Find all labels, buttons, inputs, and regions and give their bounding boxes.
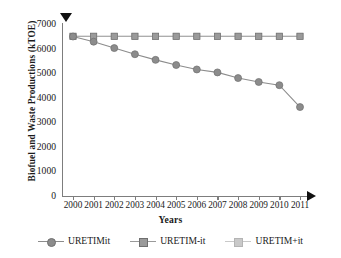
- x-axis-title: Years: [0, 214, 341, 225]
- data-point-square: [276, 33, 282, 39]
- data-point-circle: [214, 69, 221, 76]
- legend-marker-square-icon: [234, 238, 243, 247]
- series-uretim-it: [70, 33, 303, 39]
- data-point-square: [256, 33, 262, 39]
- legend-item-uretim-it[interactable]: URETIM-it: [130, 235, 205, 247]
- legend-swatch: [38, 236, 64, 247]
- data-point-circle: [111, 45, 118, 52]
- legend-swatch: [130, 236, 156, 247]
- legend-item-uretimit[interactable]: URETIMit: [38, 235, 110, 247]
- data-point-square: [235, 33, 241, 39]
- legend-item-uretim-it[interactable]: URETIM+it: [225, 235, 303, 247]
- data-point-circle: [276, 82, 283, 89]
- data-point-circle: [235, 75, 242, 82]
- legend-label: URETIM+it: [255, 235, 303, 247]
- series-uretimit: [70, 33, 304, 111]
- legend-label: URETIMit: [68, 235, 110, 247]
- chart-container: Biofuel and Waste Productions (kTOE) 700…: [0, 0, 341, 258]
- data-point-circle: [193, 66, 200, 73]
- legend-marker-square-icon: [139, 238, 148, 247]
- data-point-square: [297, 33, 303, 39]
- data-point-circle: [90, 38, 97, 45]
- data-point-square: [214, 33, 220, 39]
- data-point-circle: [173, 62, 180, 69]
- chart-legend: URETIMitURETIM-itURETIM+it: [0, 232, 341, 250]
- data-point-square: [132, 33, 138, 39]
- series-line: [73, 37, 300, 108]
- data-point-square: [173, 33, 179, 39]
- data-point-square: [111, 33, 117, 39]
- data-point-circle: [131, 51, 138, 58]
- data-point-square: [152, 33, 158, 39]
- data-point-circle: [70, 33, 77, 40]
- data-point-circle: [297, 104, 304, 111]
- data-point-circle: [255, 78, 262, 85]
- legend-marker-circle-icon: [47, 238, 56, 247]
- data-point-circle: [152, 56, 159, 63]
- data-point-square: [194, 33, 200, 39]
- legend-label: URETIM-it: [160, 235, 205, 247]
- legend-swatch: [225, 236, 251, 247]
